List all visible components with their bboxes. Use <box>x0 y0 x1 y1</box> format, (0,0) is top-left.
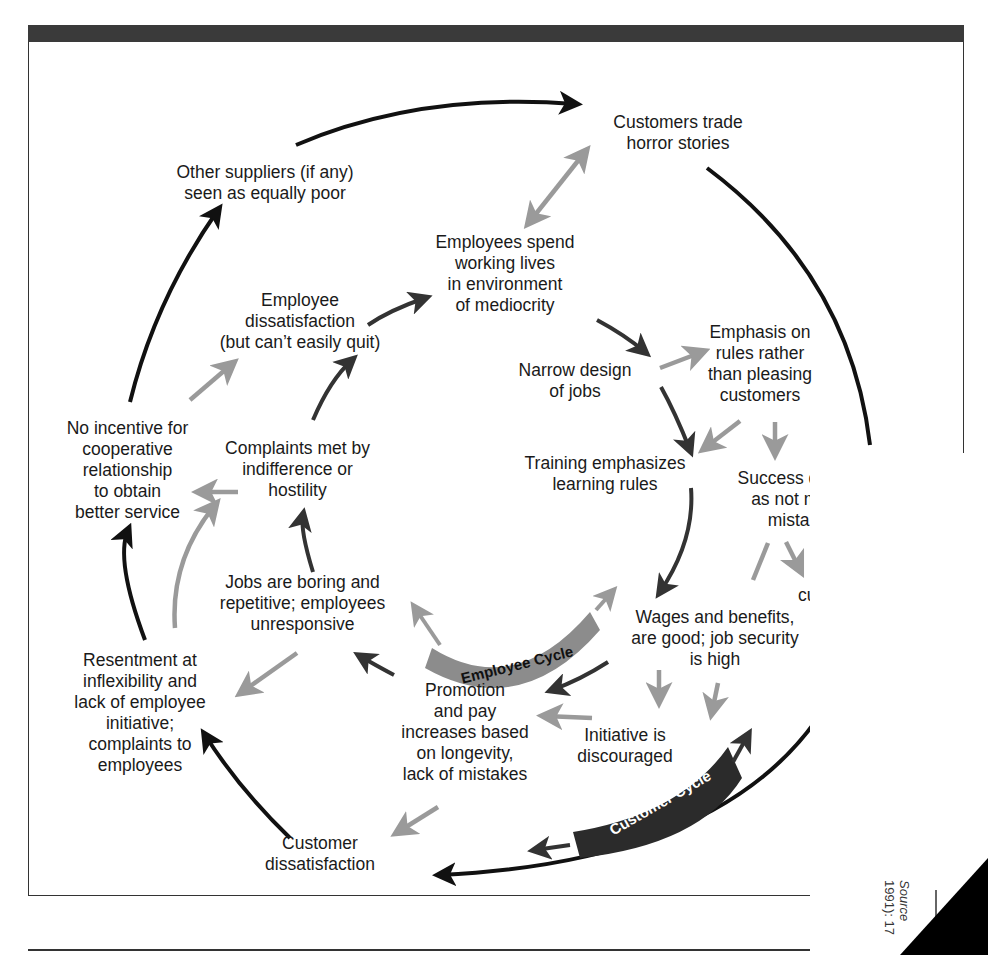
page-corner <box>0 0 988 955</box>
